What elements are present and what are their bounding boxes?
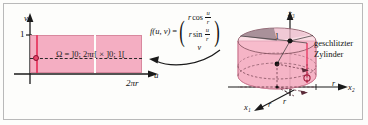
component-1-numerator: u (205, 10, 210, 17)
component-1-denominator: r (206, 19, 211, 26)
radius-label-b: r (283, 97, 286, 106)
left-paren: ( (179, 19, 185, 42)
domain-equation-label: Ω = ]0; 2πr[ × ]0; 1[ (56, 49, 125, 59)
component-2-numerator: u (205, 27, 210, 34)
component-2-fraction: u r (205, 27, 210, 42)
figure-root: v u 1 2πr Ω = ]0; 2πr[ × ]0; 1[ f(u, v) … (0, 0, 368, 125)
component-2-function: sin (193, 31, 202, 39)
right-paren: ) (214, 19, 220, 42)
component-2-denominator: r (205, 36, 210, 43)
component-1-fraction: u r (205, 10, 210, 25)
equals-sign: = (172, 26, 177, 36)
u-axis-tick-2pir: 2πr (126, 78, 139, 88)
component-2-coef: r (189, 31, 192, 39)
v-axis-label: v (24, 13, 28, 23)
radius-label-right: r (332, 79, 335, 88)
component-1-function: cos (192, 14, 203, 22)
component-1-coef: r (188, 14, 191, 22)
cylinder-panel: x₃ x₂ x₁ 1 r r r geschlitzter Zylinder (228, 4, 364, 120)
x3-axis-label: x₃ (288, 8, 295, 18)
parameter-domain-panel: v u 1 2πr Ω = ]0; 2πr[ × ]0; 1[ (8, 8, 168, 116)
x1-axis-label: x₁ (244, 102, 251, 112)
cylinder-height-label: 1 (275, 32, 279, 41)
v-axis-tick-one: 1 (20, 29, 25, 39)
function-name-label: f(u, v) (150, 26, 170, 36)
component-row-1: r cos u r (188, 10, 211, 25)
radius-label-a: r (268, 100, 271, 109)
curved-left-arrow-icon (146, 44, 226, 70)
domain-slit-line (36, 35, 38, 73)
x2-axis-label: x₂ (348, 82, 355, 92)
component-row-2: r sin u r (189, 27, 210, 42)
cylinder-caption: geschlitzter Zylinder (314, 38, 364, 60)
